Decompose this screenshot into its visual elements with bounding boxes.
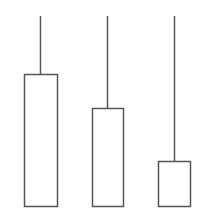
- candle-2: [93, 16, 124, 207]
- diagram-canvas: [0, 0, 219, 220]
- candle-1: [25, 16, 58, 207]
- body-rectangle: [159, 162, 191, 207]
- body-rectangle: [93, 109, 124, 207]
- body-rectangle: [25, 75, 58, 207]
- candle-3: [159, 16, 191, 207]
- candlestick-diagram: [0, 0, 219, 220]
